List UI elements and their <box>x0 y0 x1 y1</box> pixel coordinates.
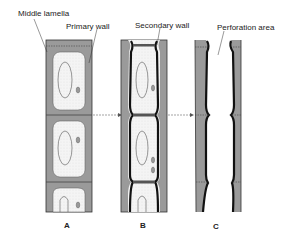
panel-label-b: B <box>140 222 146 230</box>
panel-b-cells <box>121 40 167 212</box>
panel-label-c: C <box>213 223 219 231</box>
label-middle-lamella: Middle lamella <box>18 10 69 18</box>
vessel-development-diagram <box>0 0 294 241</box>
label-primary-wall: Primary wall <box>66 23 110 31</box>
panel-label-a: A <box>64 222 70 230</box>
panel-a-cells <box>46 40 92 212</box>
label-secondary-wall: Secondary wall <box>135 22 189 30</box>
panel-c-cells <box>195 40 241 212</box>
label-perforation-area: Perforation area <box>217 24 274 32</box>
